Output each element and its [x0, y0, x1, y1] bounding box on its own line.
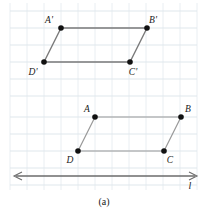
vertex-label-b: B [185, 104, 191, 114]
vertex-labels: A' B' C' D' A B C D [28, 15, 192, 165]
vertex-label-d: D [66, 155, 74, 165]
axis-line-label: l [189, 180, 192, 191]
vertex-point-c-prime [127, 59, 133, 65]
vertex-label-d-prime: D' [28, 67, 39, 77]
vertex-point-b [178, 114, 184, 120]
geometry-figure-panel: A' B' C' D' A B C D l (a) [0, 0, 208, 214]
geometry-figure-svg: A' B' C' D' A B C D l (a) [0, 0, 208, 214]
vertex-label-a-prime: A' [44, 15, 54, 25]
figure-caption: (a) [98, 196, 109, 208]
vertex-label-b-prime: B' [149, 15, 158, 25]
vertex-point-d [75, 148, 81, 154]
vertex-point-c [161, 148, 167, 154]
vertex-label-c: C [167, 155, 174, 165]
vertex-label-c-prime: C' [129, 67, 138, 77]
vertex-point-b-prime [144, 25, 150, 31]
vertex-point-a [92, 114, 98, 120]
vertex-point-a-prime [58, 25, 64, 31]
number-line-axis: l [14, 172, 197, 191]
vertex-point-d-prime [41, 59, 47, 65]
vertex-label-a: A [83, 104, 90, 114]
